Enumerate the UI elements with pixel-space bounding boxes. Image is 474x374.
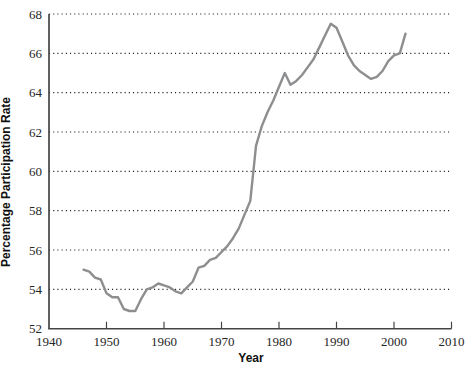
x-tick-label-2000: 2000 bbox=[381, 334, 407, 349]
x-tick-label-1990: 1990 bbox=[324, 334, 350, 349]
participation-rate-chart: 1940195019601970198019902000201052545658… bbox=[0, 0, 474, 374]
y-tick-label-64: 64 bbox=[29, 85, 43, 100]
y-tick-label-52: 52 bbox=[29, 321, 42, 336]
y-tick-label-68: 68 bbox=[29, 7, 42, 22]
axes: 1940195019601970198019902000201052545658… bbox=[29, 7, 465, 350]
y-tick-label-56: 56 bbox=[29, 243, 43, 258]
y-tick-label-54: 54 bbox=[29, 282, 43, 297]
x-tick-label-1960: 1960 bbox=[151, 334, 177, 349]
x-tick-label-1980: 1980 bbox=[266, 334, 292, 349]
y-tick-label-60: 60 bbox=[29, 164, 42, 179]
y-tick-label-58: 58 bbox=[29, 203, 42, 218]
y-tick-label-66: 66 bbox=[29, 46, 43, 61]
y-tick-label-62: 62 bbox=[29, 125, 42, 140]
gridlines bbox=[49, 14, 452, 289]
chart-canvas: 1940195019601970198019902000201052545658… bbox=[0, 0, 474, 374]
x-axis-title: Year bbox=[238, 351, 264, 365]
x-tick-label-1970: 1970 bbox=[209, 334, 235, 349]
y-axis-title: Percentage Participation Rate bbox=[0, 97, 13, 267]
line-participation_rate bbox=[84, 24, 406, 311]
x-tick-label-1950: 1950 bbox=[94, 334, 120, 349]
data-series bbox=[84, 24, 406, 311]
x-tick-label-1940: 1940 bbox=[36, 334, 62, 349]
x-tick-label-2010: 2010 bbox=[439, 334, 465, 349]
